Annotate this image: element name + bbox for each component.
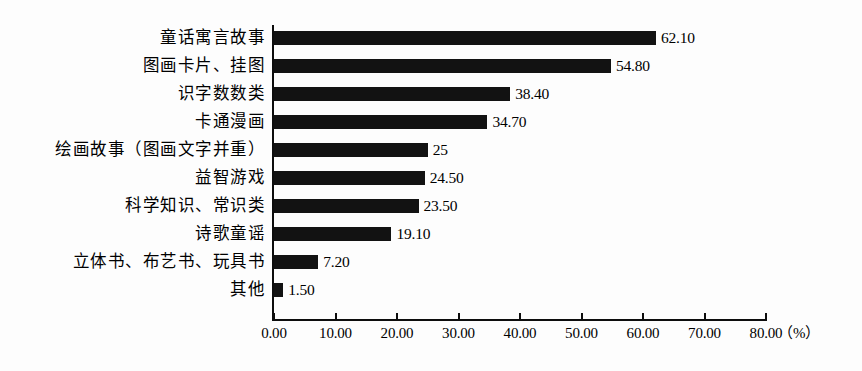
x-axis-tick-label: 50.00: [565, 324, 598, 342]
bar-row: 识字数数类38.40: [0, 80, 862, 108]
category-label: 益智游戏: [195, 164, 265, 192]
x-axis-tick-label: 40.00: [504, 324, 537, 342]
x-axis-tick: [519, 313, 521, 319]
category-label: 科学知识、常识类: [125, 192, 265, 220]
bar-row: 立体书、布艺书、玩具书7.20: [0, 248, 862, 276]
bar: [274, 283, 283, 297]
bar-wrapper: [274, 136, 428, 164]
bar: [274, 143, 428, 157]
bar: [274, 227, 391, 241]
bar-row: 益智游戏24.50: [0, 164, 862, 192]
bar-wrapper: [274, 276, 283, 304]
bar-row: 科学知识、常识类23.50: [0, 192, 862, 220]
bar-value-label: 38.40: [515, 80, 549, 108]
bar-value-label: 19.10: [396, 220, 430, 248]
bar-wrapper: [274, 24, 656, 52]
x-axis-tick-label: 30.00: [442, 324, 475, 342]
bar-value-label: 1.50: [288, 276, 314, 304]
bar-wrapper: [274, 164, 425, 192]
x-axis-tick: [765, 313, 767, 319]
x-axis-tick: [396, 313, 398, 319]
bar: [274, 255, 318, 269]
x-axis-tick: [581, 313, 583, 319]
x-axis-tick: [335, 313, 337, 319]
bar: [274, 59, 611, 73]
bar-value-label: 62.10: [661, 24, 695, 52]
x-axis-unit-label: （%）: [778, 324, 821, 342]
bar-row: 其他1.50: [0, 276, 862, 304]
x-axis-tick-label: 0.00: [261, 324, 286, 342]
x-axis-tick-label: 60.00: [627, 324, 660, 342]
x-axis-tick-label: 20.00: [381, 324, 414, 342]
category-label: 诗歌童谣: [195, 220, 265, 248]
x-axis-tick: [458, 313, 460, 319]
x-axis-tick-label: 10.00: [319, 324, 352, 342]
plot-area: 童话寓言故事62.10图画卡片、挂图54.80识字数数类38.40卡通漫画34.…: [0, 0, 862, 371]
bar-wrapper: [274, 108, 487, 136]
bar-wrapper: [274, 220, 391, 248]
bar-value-label: 24.50: [430, 164, 464, 192]
bar-row: 诗歌童谣19.10: [0, 220, 862, 248]
bar-value-label: 7.20: [323, 248, 349, 276]
bar-value-label: 34.70: [492, 108, 526, 136]
category-label: 图画卡片、挂图: [143, 52, 266, 80]
bar-value-label: 23.50: [424, 192, 458, 220]
bar: [274, 115, 487, 129]
x-axis-tick: [642, 313, 644, 319]
category-label: 识字数数类: [178, 80, 266, 108]
bar-row: 童话寓言故事62.10: [0, 24, 862, 52]
bar: [274, 199, 419, 213]
category-label: 其他: [230, 276, 265, 304]
bar-row: 图画卡片、挂图54.80: [0, 52, 862, 80]
bar-chart: 童话寓言故事62.10图画卡片、挂图54.80识字数数类38.40卡通漫画34.…: [0, 0, 862, 371]
bar-wrapper: [274, 192, 419, 220]
bar: [274, 171, 425, 185]
bar-row: 卡通漫画34.70: [0, 108, 862, 136]
bar-wrapper: [274, 80, 510, 108]
bar-value-label: 25: [433, 136, 448, 164]
category-label: 立体书、布艺书、玩具书: [73, 248, 266, 276]
bar: [274, 87, 510, 101]
x-axis-tick-label: 70.00: [688, 324, 721, 342]
category-label: 卡通漫画: [195, 108, 265, 136]
x-axis-line: [272, 319, 767, 321]
category-label: 绘画故事（图画文字并重）: [55, 136, 265, 164]
x-axis-tick: [273, 313, 275, 319]
bar-wrapper: [274, 248, 318, 276]
bar: [274, 31, 656, 45]
x-axis-tick: [704, 313, 706, 319]
bar-row: 绘画故事（图画文字并重）25: [0, 136, 862, 164]
bar-wrapper: [274, 52, 611, 80]
category-label: 童话寓言故事: [160, 24, 265, 52]
bar-value-label: 54.80: [616, 52, 650, 80]
